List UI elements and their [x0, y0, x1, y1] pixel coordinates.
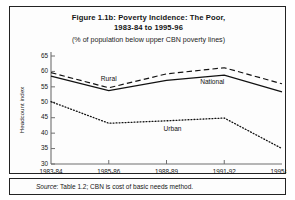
- source-note: Source: Table 1.2; CBN is cost of basic …: [10, 183, 193, 190]
- figure-panel: Figure 1.1b: Poverty Incidence: The Poor…: [9, 6, 286, 174]
- series-label-urban: Urban: [164, 125, 182, 132]
- series-label-national: National: [200, 78, 225, 85]
- x-tick-label: 1983-84: [39, 168, 63, 175]
- data-series-group: [51, 68, 282, 149]
- line-chart: 3035404550556065 1983-841985-861988-8919…: [10, 7, 287, 175]
- x-tick-label: 1995-96: [270, 168, 287, 175]
- x-tick-label: 1991-92: [213, 168, 237, 175]
- y-tick-label: 50: [41, 98, 49, 105]
- x-axis: 1983-841985-861988-891991-921995-96: [39, 160, 287, 175]
- y-tick-label: 65: [41, 52, 49, 59]
- y-tick-label: 60: [41, 67, 49, 74]
- y-tick-label: 40: [41, 129, 49, 136]
- y-axis: 3035404550556065: [41, 52, 55, 167]
- series-label-rural: Rural: [101, 75, 117, 82]
- y-tick-label: 35: [41, 144, 49, 151]
- y-tick-label: 30: [41, 160, 49, 167]
- x-tick-label: 1988-89: [155, 168, 179, 175]
- source-label: Source: [36, 183, 57, 190]
- source-detail: : Table 1.2; CBN is cost of basic needs …: [57, 183, 193, 190]
- y-tick-label: 45: [41, 113, 49, 120]
- series-line-national: [51, 75, 282, 92]
- y-axis-title: Headcount index: [18, 86, 25, 133]
- x-tick-label: 1985-86: [97, 168, 121, 175]
- y-tick-label: 55: [41, 83, 49, 90]
- source-note-panel: Source: Table 1.2; CBN is cost of basic …: [9, 178, 286, 195]
- plot-area: 3035404550556065 1983-841985-861988-8919…: [10, 7, 287, 175]
